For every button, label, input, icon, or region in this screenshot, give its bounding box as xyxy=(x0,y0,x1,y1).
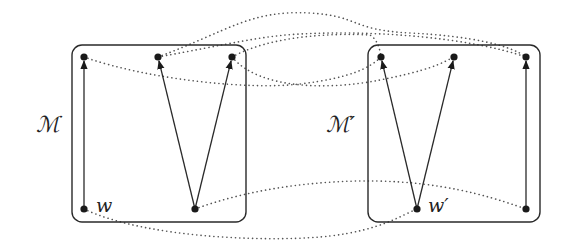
edge-arrow-w_prime-n_tl xyxy=(382,61,417,209)
relation-m_tr-n_tm xyxy=(232,57,454,86)
world-node-n_tl xyxy=(377,53,384,60)
world-node-n_br xyxy=(522,205,529,212)
world-node-n_tm xyxy=(450,53,457,60)
model-boxes xyxy=(72,45,540,222)
edge-arrow-m_bm-m_tm xyxy=(159,61,195,209)
world-nodes xyxy=(80,53,529,212)
edge-arrow-w_prime-n_tm xyxy=(417,61,453,209)
relation-w-w_prime xyxy=(84,209,417,239)
relation-m_tm-n_tr xyxy=(158,13,526,57)
bisimulation-diagram xyxy=(0,0,567,245)
model-label-m: ℳ xyxy=(36,112,60,137)
model-label-m-prime: ℳ′ xyxy=(326,112,355,137)
relation-m_tr-n_tl xyxy=(232,34,381,57)
world-label-w-prime: w′ xyxy=(428,194,449,216)
world-node-w xyxy=(80,205,87,212)
world-node-n_tr xyxy=(522,53,529,60)
edge-arrow-m_bm-m_tr xyxy=(195,61,231,209)
relation-m_tl-n_tl xyxy=(84,57,381,86)
model-box-m-prime xyxy=(368,45,540,222)
world-node-m_tl xyxy=(80,53,87,60)
bisimulation-relations xyxy=(84,13,526,239)
relation-m_bm-n_br xyxy=(195,181,526,209)
world-node-m_bm xyxy=(191,205,198,212)
world-node-m_tm xyxy=(154,53,161,60)
world-node-w_prime xyxy=(413,205,420,212)
world-node-m_tr xyxy=(228,53,235,60)
world-label-w: w xyxy=(96,194,112,216)
